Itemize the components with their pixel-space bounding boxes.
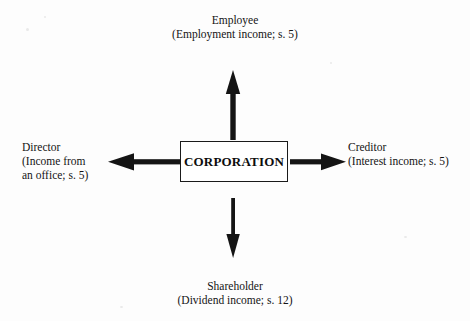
node-label-creditor: Creditor (Interest income; s. 5)	[348, 140, 449, 168]
node-label-director: Director (Income from an office; s. 5)	[22, 140, 88, 182]
diagram-canvas: Employee (Employment income; s. 5) Direc…	[0, 0, 470, 321]
arrow-down-icon	[214, 198, 252, 258]
scan-speck	[404, 236, 407, 238]
corporation-box-label: CORPORATION	[184, 154, 284, 170]
arrow-right-icon	[290, 150, 346, 174]
node-label-shareholder: Shareholder (Dividend income; s. 12)	[0, 279, 470, 307]
arrow-left-icon	[108, 150, 180, 174]
scan-speck	[330, 62, 332, 64]
arrow-up-icon	[214, 70, 252, 140]
corporation-box: CORPORATION	[180, 141, 288, 182]
node-label-employee: Employee (Employment income; s. 5)	[0, 13, 470, 41]
